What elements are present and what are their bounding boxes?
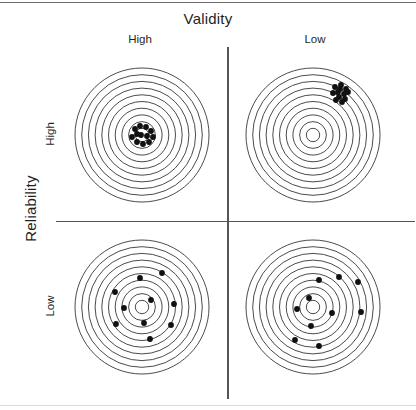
- target-ring: [82, 247, 203, 368]
- shot-marker: [144, 133, 150, 139]
- target-ring: [306, 300, 319, 313]
- target-ring: [300, 122, 327, 149]
- shot-marker: [316, 277, 322, 283]
- shot-marker: [148, 128, 154, 134]
- shot-marker: [121, 305, 127, 311]
- target-ring: [280, 274, 347, 341]
- target-ring: [135, 300, 148, 313]
- target-ring: [293, 115, 333, 155]
- shot-marker: [113, 321, 119, 327]
- shot-marker: [148, 297, 154, 303]
- shot-marker: [306, 295, 312, 301]
- shot-marker: [339, 99, 345, 105]
- shot-marker: [141, 320, 147, 326]
- target-ring: [253, 247, 374, 368]
- target-ring: [266, 88, 360, 182]
- horizontal-quadrant-divider: [56, 221, 415, 222]
- shot-marker: [333, 97, 339, 103]
- shot-marker: [146, 139, 152, 145]
- shot-marker: [336, 274, 342, 280]
- row-axis-title: Reliability: [22, 119, 39, 299]
- target-ring: [300, 294, 327, 321]
- shot-marker: [159, 270, 165, 276]
- target-ring: [286, 108, 340, 162]
- shot-marker: [137, 275, 143, 281]
- shot-marker: [308, 323, 314, 329]
- shot-marker: [332, 84, 338, 90]
- shot-marker: [329, 310, 335, 316]
- row-label-high: High: [44, 104, 56, 164]
- validity-reliability-figure: Validity High Low Reliability High Low: [0, 0, 416, 410]
- target-ring: [95, 260, 189, 354]
- target-ring: [88, 253, 195, 360]
- target-ring: [273, 95, 353, 175]
- target-ring: [259, 81, 366, 188]
- vertical-quadrant-divider: [227, 47, 229, 399]
- target-low-validity-low-reliability: [245, 239, 381, 375]
- shot-marker: [316, 343, 322, 349]
- shot-marker: [171, 301, 177, 307]
- shot-marker: [345, 89, 351, 95]
- target-ring: [280, 102, 347, 169]
- shot-marker: [140, 141, 146, 147]
- target-high-validity-low-reliability: [74, 239, 210, 375]
- target-ring: [253, 75, 374, 196]
- shot-marker: [150, 134, 156, 140]
- column-axis-title: Validity: [0, 10, 416, 27]
- shot-marker: [330, 90, 336, 96]
- column-label-low: Low: [285, 33, 345, 45]
- column-label-high: High: [110, 33, 170, 45]
- shot-marker: [134, 131, 140, 137]
- target-high-validity-high-reliability: [74, 67, 210, 203]
- target-ring: [266, 260, 360, 354]
- target-ring: [259, 253, 366, 360]
- shot-marker: [112, 289, 118, 295]
- shot-marker: [355, 279, 361, 285]
- top-divider-line: [0, 2, 416, 3]
- shot-marker: [132, 126, 138, 132]
- shot-marker: [137, 123, 143, 129]
- target-ring: [109, 274, 176, 341]
- target-low-validity-high-reliability: [245, 67, 381, 203]
- shot-marker: [358, 309, 364, 315]
- shot-marker: [129, 134, 135, 140]
- bottom-divider-line: [0, 405, 416, 406]
- target-ring: [306, 128, 319, 141]
- shot-marker: [147, 336, 153, 342]
- shot-marker: [168, 322, 174, 328]
- shot-marker: [134, 139, 140, 145]
- shot-marker: [143, 124, 149, 130]
- shot-marker: [292, 337, 298, 343]
- shot-marker: [294, 306, 300, 312]
- shot-marker: [337, 86, 343, 92]
- row-label-low: Low: [44, 276, 56, 336]
